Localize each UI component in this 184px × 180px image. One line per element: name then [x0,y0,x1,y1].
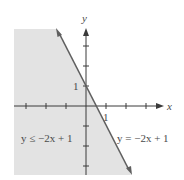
y-axis-label: y [81,12,87,24]
y-axis-arrow-icon [83,28,89,36]
shaded-region [14,29,131,175]
graph-canvas: y x 1 1 y ≤ −2x + 1 y = −2x + 1 [0,0,184,180]
equation-label: y = −2x + 1 [117,132,169,144]
x-axis-label: x [166,100,172,112]
x-axis-arrow-icon [156,103,164,109]
inequality-label: y ≤ −2x + 1 [21,132,72,144]
x-tick-one-label: 1 [103,111,109,123]
y-tick-one-label: 1 [73,80,79,92]
inequality-graph: y x 1 1 y ≤ −2x + 1 y = −2x + 1 [0,0,184,180]
